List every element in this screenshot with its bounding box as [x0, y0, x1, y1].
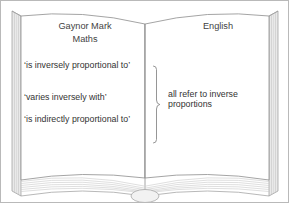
left-page-phrase: ‘is inversely proportional to’: [24, 60, 146, 70]
left-page-header-subject: Maths: [32, 34, 138, 45]
right-page-note: all refer to inverse proportions: [168, 89, 276, 110]
left-page-header-name: Gaynor Mark: [32, 21, 138, 32]
book-text-layer: Gaynor Mark Maths English ‘is inversely …: [0, 0, 290, 204]
book-diagram-canvas: Gaynor Mark Maths English ‘is inversely …: [0, 0, 290, 204]
right-page-header-subject: English: [165, 21, 271, 32]
left-page-phrase: ‘is indirectly proportional to’: [24, 114, 146, 124]
left-page-phrase: ‘varies inversely with’: [24, 92, 146, 102]
